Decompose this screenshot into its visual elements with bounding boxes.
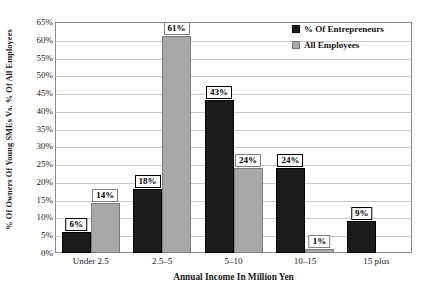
bar-value-label: 1%	[309, 235, 331, 248]
bar-group: 9%	[341, 22, 412, 253]
bar-value-label: 18%	[135, 175, 161, 188]
legend-item-label: % Of Entrepreneurs	[304, 24, 384, 34]
bar-value-label: 43%	[206, 86, 232, 99]
y-axis-tick-label: 40%	[19, 106, 53, 116]
y-axis-tick-label: 65%	[19, 17, 53, 27]
y-axis-tick-label: 60%	[19, 35, 53, 45]
y-axis-tick-label: 50%	[19, 70, 53, 80]
x-axis-tick-label: 2.5–5	[126, 256, 197, 266]
x-axis-tick-label: 10–15	[269, 256, 340, 266]
legend-item-all-employees[interactable]: All Employees	[292, 40, 384, 50]
bar[interactable]: 1%	[305, 249, 334, 253]
bar[interactable]: 43%	[205, 100, 234, 253]
y-axis-title-text: % Of Owners Of Young SMEs Vs. % Of All E…	[5, 29, 14, 229]
bar[interactable]: 24%	[276, 168, 305, 253]
bar[interactable]: 18%	[133, 189, 162, 253]
bar-group: 6%14%	[55, 22, 126, 253]
y-axis-tick-label: 5%	[19, 230, 53, 240]
black-square-icon	[292, 25, 300, 33]
y-axis-tick-label: 25%	[19, 159, 53, 169]
y-axis-tick-label: 45%	[19, 88, 53, 98]
bar[interactable]: 14%	[91, 203, 120, 253]
legend-item-label: All Employees	[304, 40, 359, 50]
bars-layer: 6%14%18%61%43%24%24%1%9%	[55, 22, 412, 253]
y-axis-tick-label: 30%	[19, 141, 53, 151]
x-axis-tick-label: 15 plus	[341, 256, 412, 266]
y-axis-tick-labels: 65%60%55%50%45%40%35%30%25%20%15%10%5%0%	[15, 22, 53, 253]
legend-item-entrepreneurs[interactable]: % Of Entrepreneurs	[292, 24, 384, 34]
bar-value-label: 14%	[92, 189, 118, 202]
bar[interactable]: 9%	[347, 221, 376, 253]
gray-square-icon	[292, 41, 300, 49]
y-axis-tick-label: 0%	[19, 248, 53, 258]
bar[interactable]: 61%	[162, 36, 191, 253]
bar[interactable]: 24%	[234, 168, 263, 253]
y-axis-tick-label: 35%	[19, 124, 53, 134]
chart-legend: % Of Entrepreneurs All Employees	[292, 24, 384, 50]
y-axis-tick-label: 20%	[19, 177, 53, 187]
y-axis-tick-label: 10%	[19, 212, 53, 222]
bar-group: 43%24%	[198, 22, 269, 253]
y-axis-tick-label: 55%	[19, 53, 53, 63]
x-axis-tick-labels: Under 2.52.5–55–1010–1515 plus	[55, 256, 412, 266]
bar[interactable]: 6%	[62, 232, 91, 253]
bar-chart: % Of Owners Of Young SMEs Vs. % Of All E…	[0, 0, 424, 298]
x-axis-tick-label: Under 2.5	[55, 256, 126, 266]
bar-value-label: 61%	[164, 22, 190, 35]
bar-group: 18%61%	[126, 22, 197, 253]
x-axis-title: Annual Income In Million Yen	[55, 272, 412, 282]
bar-value-label: 9%	[351, 207, 373, 220]
bar-value-label: 6%	[65, 218, 87, 231]
bar-value-label: 24%	[277, 154, 303, 167]
x-axis-tick-label: 5–10	[198, 256, 269, 266]
bar-group: 24%1%	[269, 22, 340, 253]
bar-value-label: 24%	[235, 154, 261, 167]
y-axis-tick-label: 15%	[19, 195, 53, 205]
